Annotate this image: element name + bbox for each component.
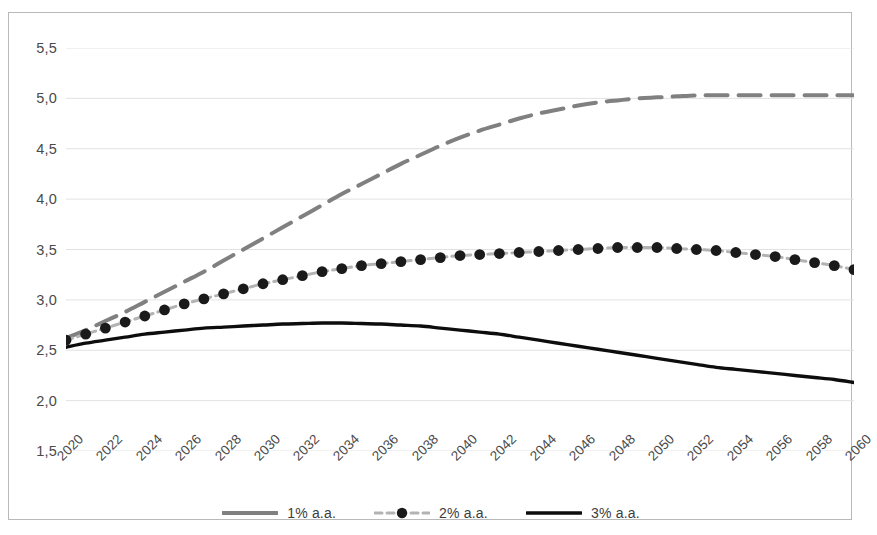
data-point-marker xyxy=(671,243,682,254)
data-point-marker xyxy=(179,299,190,310)
y-axis-tick-label: 3,0 xyxy=(36,292,57,308)
data-point-marker xyxy=(849,264,854,275)
legend-item-1[interactable]: 1% a.a. xyxy=(222,505,336,521)
data-point-marker xyxy=(297,270,308,281)
data-point-marker xyxy=(514,247,525,258)
data-point-marker xyxy=(593,243,604,254)
legend-item-2[interactable]: 2% a.a. xyxy=(374,505,488,521)
data-point-marker xyxy=(238,283,249,294)
data-point-marker xyxy=(435,252,446,263)
data-point-marker xyxy=(553,245,564,256)
data-point-marker xyxy=(80,329,91,340)
data-point-marker xyxy=(711,245,722,256)
y-axis-tick-label: 5,0 xyxy=(36,90,57,106)
data-point-marker xyxy=(139,311,150,322)
data-point-marker xyxy=(376,258,387,269)
data-point-marker xyxy=(336,263,347,274)
plot-area xyxy=(66,48,854,451)
data-point-marker xyxy=(770,251,781,262)
data-point-marker xyxy=(829,260,840,271)
y-axis-tick-label: 4,0 xyxy=(36,191,57,207)
y-axis-tick-label: 2,0 xyxy=(36,393,57,409)
data-point-marker xyxy=(730,247,741,258)
y-axis-tick-label: 1,5 xyxy=(36,443,57,459)
legend-label: 3% a.a. xyxy=(591,505,640,521)
series-line xyxy=(66,247,854,340)
data-point-marker xyxy=(120,317,131,328)
data-point-marker xyxy=(199,293,210,304)
y-axis-tick-labels: 1,52,02,53,03,54,04,55,05,5 xyxy=(9,48,57,451)
data-point-marker xyxy=(396,256,407,267)
data-point-marker xyxy=(317,266,328,277)
data-point-marker xyxy=(356,260,367,271)
series-3 xyxy=(66,323,854,383)
data-point-marker xyxy=(652,242,663,253)
data-point-marker xyxy=(750,249,761,260)
y-axis-tick-label: 2,5 xyxy=(36,342,57,358)
legend-key-swatch xyxy=(222,506,278,520)
data-point-marker xyxy=(218,288,229,299)
series-line xyxy=(66,323,854,383)
legend-key-swatch xyxy=(374,506,430,520)
data-point-marker xyxy=(100,323,111,334)
chart-screenshot: 1,52,02,53,03,54,04,55,05,5 202020222024… xyxy=(0,0,877,535)
chart-frame: 1,52,02,53,03,54,04,55,05,5 202020222024… xyxy=(8,12,852,520)
y-axis-tick-label: 5,5 xyxy=(36,40,57,56)
legend-label: 2% a.a. xyxy=(439,505,488,521)
data-point-marker xyxy=(159,305,170,316)
data-point-marker xyxy=(809,257,820,268)
legend-label: 1% a.a. xyxy=(287,505,336,521)
data-point-marker xyxy=(691,244,702,255)
data-point-marker xyxy=(573,244,584,255)
data-point-marker xyxy=(474,249,485,260)
legend-item-3[interactable]: 3% a.a. xyxy=(526,505,640,521)
data-point-marker xyxy=(790,254,801,265)
data-point-marker xyxy=(612,242,623,253)
y-axis-tick-label: 3,5 xyxy=(36,242,57,258)
chart-legend: 1% a.a.2% a.a.3% a.a. xyxy=(9,505,853,521)
data-point-marker xyxy=(415,254,426,265)
data-point-marker xyxy=(277,274,288,285)
legend-key-swatch xyxy=(526,506,582,520)
data-point-marker xyxy=(632,242,643,253)
chart-canvas xyxy=(66,48,854,451)
data-point-marker xyxy=(258,278,269,289)
data-point-marker xyxy=(533,246,544,257)
y-axis-tick-label: 4,5 xyxy=(36,141,57,157)
x-axis-tick-labels: 2020202220242026202820302032203420362038… xyxy=(66,453,854,505)
data-point-marker xyxy=(494,248,505,259)
data-point-marker xyxy=(455,250,466,261)
